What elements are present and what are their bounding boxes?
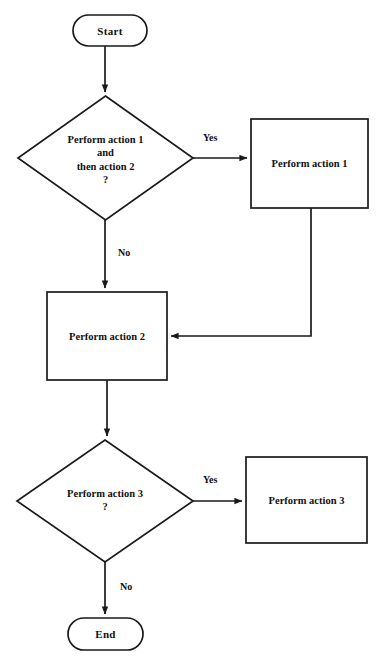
node-process2-shape[interactable] [47, 292, 167, 380]
node-end-shape[interactable] [68, 618, 143, 650]
edge-process1-to-process2 [171, 208, 311, 336]
node-process3-shape[interactable] [246, 457, 367, 543]
node-decision2-shape[interactable] [17, 440, 193, 562]
node-decision1-shape[interactable] [18, 96, 193, 220]
node-start-shape[interactable] [73, 15, 147, 46]
flowchart-canvas [0, 0, 384, 660]
node-process1-shape[interactable] [251, 119, 368, 208]
